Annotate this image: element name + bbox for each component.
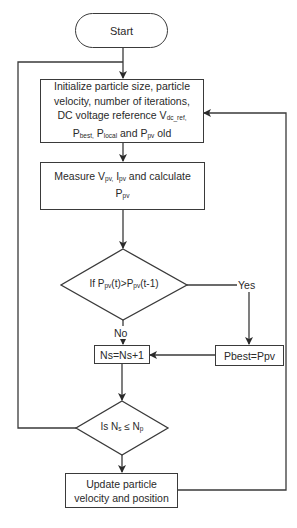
init-line-4: Pbest, Plocal and Ppv old [54, 126, 190, 144]
decision2-text: Is Ns ≤ Np [76, 421, 168, 432]
increment-ns-box: Ns=Ns+1 [94, 345, 150, 364]
no-label: No [114, 327, 127, 339]
init-line-3: DC voltage reference Vdc_ref, [54, 108, 190, 126]
decision1-text: If Ppv(t)>Ppv(t-1) [61, 278, 187, 289]
init-line-1: Initialize particle size, particle [54, 79, 190, 94]
yes-label: Yes [238, 279, 255, 291]
flowchart-diagram: Start Initialize particle size, particle… [0, 0, 297, 528]
update-particle-box: Update particle velocity and position [65, 473, 178, 508]
start-terminal: Start [75, 13, 168, 48]
measure-process-box: Measure Vpv, Ipv and calculate Ppv [40, 162, 205, 210]
update-line-1: Update particle [74, 477, 169, 491]
update-line-2: velocity and position [74, 491, 169, 505]
measure-line-1: Measure Vpv, Ipv and calculate [54, 169, 191, 186]
initialize-process-box: Initialize particle size, particle veloc… [40, 79, 204, 143]
init-line-2: velocity, number of iterations, [54, 94, 190, 109]
start-label: Start [110, 24, 133, 38]
measure-line-2: Ppv [54, 186, 191, 203]
pbest-update-box: Pbest=Ppv [215, 345, 284, 366]
